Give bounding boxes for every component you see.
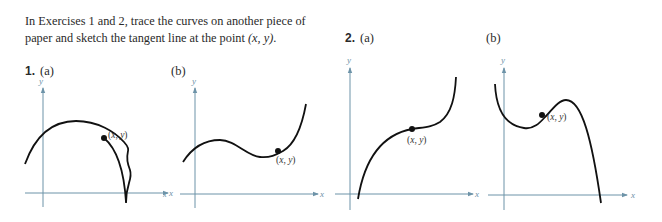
- graph-1b: y x x (x, y): [162, 76, 324, 208]
- graph-2b: y x (x, y): [488, 55, 635, 210]
- graph-1b-x-label-left-fragment: x: [162, 190, 167, 199]
- graph-1b-x-label: x: [319, 189, 324, 199]
- graph-2b-curve: [495, 84, 601, 203]
- graph-1a-curve-fix: [104, 138, 126, 202]
- graph-2a-point: [409, 126, 415, 132]
- graph-1a-point: [101, 135, 107, 141]
- graph-2a-point-label: (x, y): [407, 135, 427, 146]
- graph-2b-point: [539, 112, 545, 118]
- graph-1b-point: [275, 148, 281, 154]
- graph-1b-y-label: y: [191, 76, 196, 86]
- graph-1a-x-label: x: [168, 188, 173, 198]
- graph-2b-point-label: (x, y): [547, 112, 567, 123]
- graph-2a-y-label: y: [346, 55, 351, 65]
- graph-1b-curve: [183, 104, 306, 162]
- graph-2a-x-label: x: [474, 189, 479, 199]
- graph-2b-y-label: y: [500, 55, 505, 65]
- graph-2a: y x (x, y): [335, 55, 479, 210]
- graph-1a-y-label: y: [38, 76, 43, 86]
- graph-1a-point-label: (x, y): [108, 130, 128, 141]
- graph-1a: y x (x, y): [25, 76, 173, 207]
- graph-1b-point-label: (x, y): [276, 155, 296, 166]
- graph-2b-x-label: x: [630, 190, 635, 200]
- exercise-graphs: y x (x, y) y x x (x, y) y x (x, y) y x (…: [0, 0, 662, 222]
